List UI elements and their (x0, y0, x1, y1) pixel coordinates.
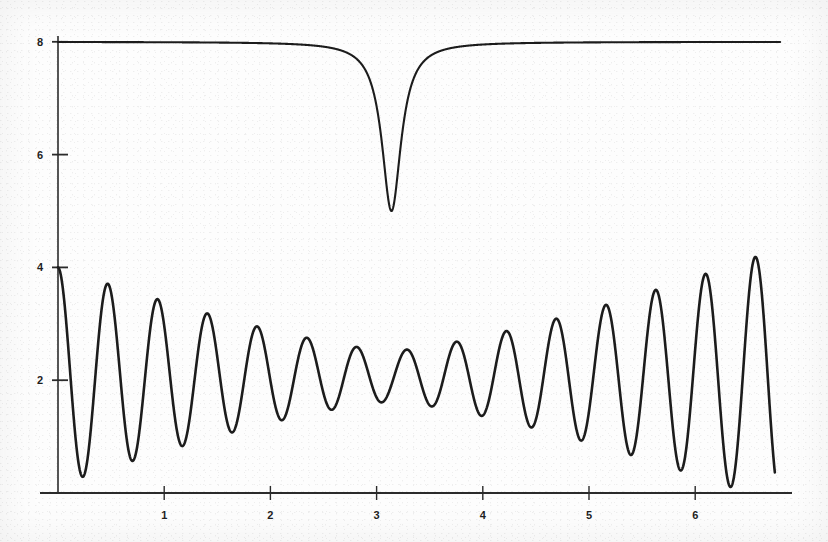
figure-container: 2468 123456 (0, 0, 828, 542)
y-tick-label: 4 (37, 261, 44, 273)
y-axis-tick-labels: 2468 (37, 36, 44, 386)
x-axis-tick-labels: 123456 (161, 509, 698, 521)
y-tick-label: 2 (37, 374, 43, 386)
x-tick-label: 4 (480, 509, 487, 521)
plot-canvas: 2468 123456 (0, 0, 828, 542)
axes-group (40, 36, 792, 493)
upper-dip-curve (58, 42, 780, 211)
x-tick-label: 6 (692, 509, 698, 521)
x-tick-label: 3 (374, 509, 380, 521)
x-tick-label: 5 (586, 509, 592, 521)
x-tick-label: 1 (161, 509, 167, 521)
lower-oscillation-curve (58, 257, 775, 487)
x-tick-label: 2 (267, 509, 273, 521)
y-tick-label: 8 (37, 36, 43, 48)
y-tick-label: 6 (37, 149, 43, 161)
data-curves-group (58, 42, 780, 487)
